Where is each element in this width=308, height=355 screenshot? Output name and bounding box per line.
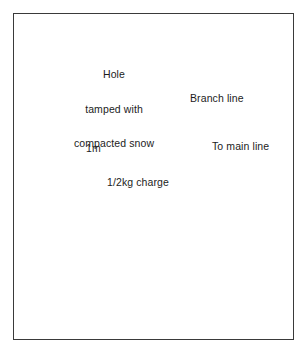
- label-to-main-line: To main line: [212, 141, 269, 153]
- label-hole-line1: Hole: [54, 69, 174, 81]
- label-hole-block: Hole tamped with compacted snow: [54, 46, 174, 173]
- label-branch-line: Branch line: [190, 93, 244, 105]
- label-depth-1m: 1m: [86, 143, 101, 155]
- label-charge: 1/2kg charge: [107, 177, 169, 189]
- figure-canvas: Hole tamped with compacted snow Branch l…: [0, 0, 308, 355]
- label-hole-line3: compacted snow: [54, 138, 174, 150]
- label-hole-line2: tamped with: [54, 104, 174, 116]
